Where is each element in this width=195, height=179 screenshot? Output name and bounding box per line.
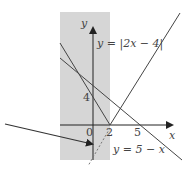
y-axis-label: y (80, 17, 88, 30)
x-tick-5: 5 (134, 126, 141, 139)
x-tick-2: 2 (106, 126, 113, 139)
y-tick-4: 4 (83, 91, 90, 104)
abs-curve-label: y = |2x − 4| (96, 37, 163, 51)
x-axis-label: x (169, 129, 176, 142)
origin-label: 0 (86, 126, 93, 139)
graph-figure: y x 0 2 5 4 y = |2x − 4| y = 5 − x (0, 0, 195, 179)
linear-curve-label: y = 5 − x (112, 143, 166, 156)
